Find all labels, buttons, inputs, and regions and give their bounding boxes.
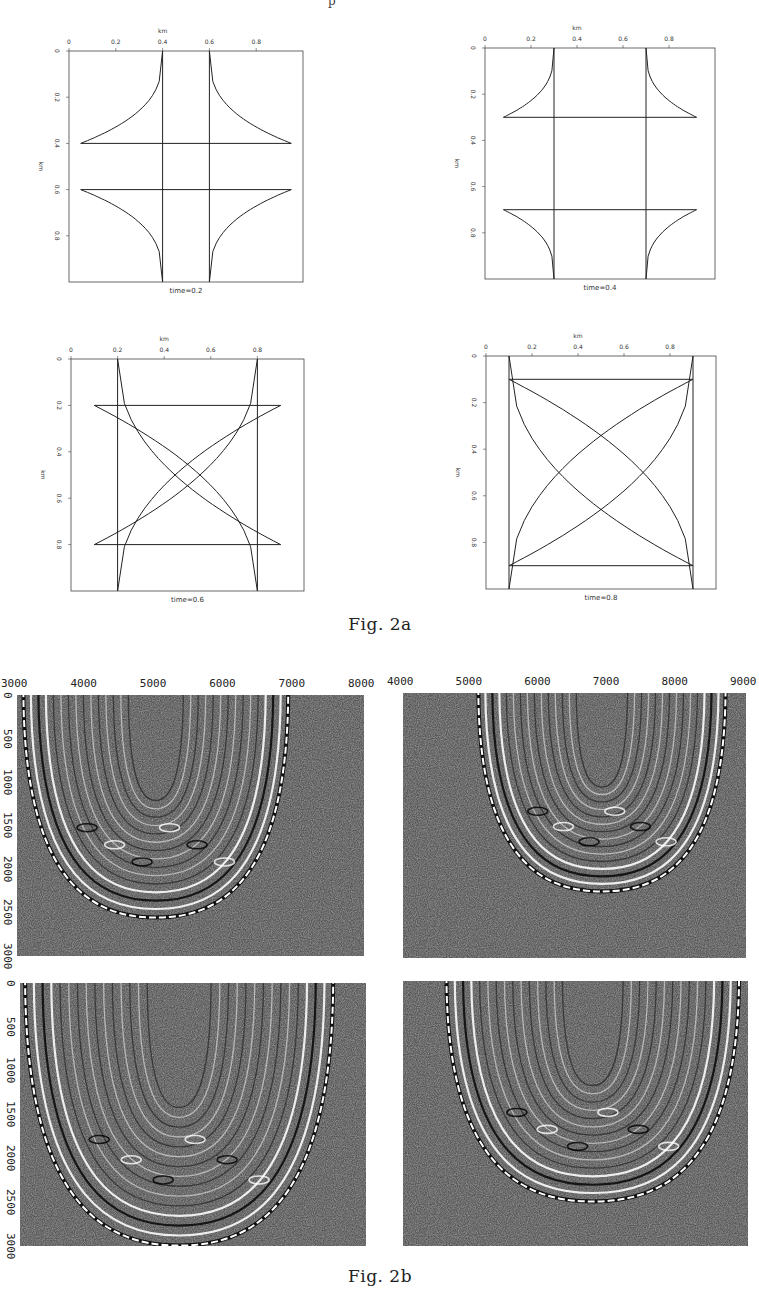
svg-text:km: km [454, 159, 461, 168]
svg-text:0: 0 [470, 46, 477, 50]
svg-text:0: 0 [471, 354, 478, 358]
seismic-image-2 [403, 693, 746, 958]
y-tick-label: 2000 [4, 1145, 17, 1172]
svg-text:0.8: 0.8 [56, 540, 63, 550]
time-label-2: time=0.4 [584, 284, 617, 292]
figure-2a-caption: Fig. 2a [348, 614, 411, 634]
time-label-4: time=0.8 [585, 594, 618, 602]
x-tick-label: 4000 [387, 675, 414, 688]
svg-text:0.8: 0.8 [54, 231, 61, 241]
wavefront-plot-3: 00.20.40.60.800.20.40.60.8kmkm [71, 359, 304, 591]
time-label-3: time=0.6 [171, 596, 204, 604]
svg-text:0: 0 [69, 346, 73, 353]
figure-2b-caption: Fig. 2b [348, 1266, 412, 1286]
svg-text:0.8: 0.8 [251, 38, 261, 45]
svg-text:0.4: 0.4 [471, 444, 478, 454]
y-tick-label: 3000 [1, 943, 14, 970]
x-tick-label: 6000 [209, 677, 236, 690]
y-tick-label: 500 [1, 729, 14, 749]
wavefront-plot-2: 00.20.40.60.800.20.40.60.8kmkm [485, 48, 715, 279]
seismic-image-4 [403, 981, 748, 1246]
wavefront-plot-1: 00.20.40.60.800.20.40.60.8kmkm [69, 51, 303, 282]
svg-text:0.6: 0.6 [619, 343, 629, 350]
svg-text:0: 0 [56, 357, 63, 361]
svg-text:km: km [158, 27, 167, 34]
svg-text:0.2: 0.2 [470, 89, 477, 99]
svg-text:0.2: 0.2 [54, 92, 61, 102]
svg-text:0.4: 0.4 [470, 136, 477, 146]
x-tick-label: 4000 [70, 677, 97, 690]
x-tick-label: 7000 [279, 677, 306, 690]
page-number-fragment: p [328, 0, 336, 8]
y-tick-label: 2500 [4, 1189, 17, 1216]
x-tick-label: 8000 [348, 677, 375, 690]
y-tick-label: 3000 [4, 1233, 17, 1260]
svg-text:0.2: 0.2 [526, 35, 536, 42]
svg-text:0.6: 0.6 [206, 346, 216, 353]
x-tick-label: 8000 [661, 675, 688, 688]
svg-text:0.6: 0.6 [54, 185, 61, 195]
svg-text:0: 0 [483, 35, 487, 42]
x-tick-label: 9000 [730, 675, 757, 688]
svg-text:0.8: 0.8 [665, 343, 675, 350]
svg-text:0.4: 0.4 [572, 35, 582, 42]
seismic-image-3 [20, 983, 366, 1246]
y-tick-label: 0 [1, 692, 14, 699]
svg-text:km: km [160, 335, 169, 342]
svg-text:km: km [455, 468, 462, 477]
x-tick-label: 7000 [593, 675, 620, 688]
svg-text:0.6: 0.6 [470, 182, 477, 192]
svg-text:0.8: 0.8 [664, 35, 674, 42]
svg-text:0.6: 0.6 [471, 491, 478, 501]
y-tick-label: 2500 [1, 899, 14, 926]
time-label-1: time=0.2 [170, 287, 203, 295]
wavefront-plot-4: 00.20.40.60.800.20.40.60.8kmkm [486, 356, 716, 589]
svg-text:0.6: 0.6 [618, 35, 628, 42]
svg-text:0.6: 0.6 [56, 493, 63, 503]
svg-text:km: km [573, 332, 582, 339]
svg-text:0.4: 0.4 [54, 139, 61, 149]
svg-text:0.2: 0.2 [56, 401, 63, 411]
svg-text:0.4: 0.4 [159, 346, 169, 353]
y-tick-label: 1000 [4, 1057, 17, 1084]
svg-text:0.6: 0.6 [205, 38, 215, 45]
svg-text:0.2: 0.2 [527, 343, 537, 350]
svg-text:0.4: 0.4 [56, 447, 63, 457]
svg-text:0: 0 [67, 38, 71, 45]
x-tick-label: 6000 [524, 675, 551, 688]
y-tick-label: 1500 [1, 812, 14, 839]
svg-text:0.2: 0.2 [113, 346, 123, 353]
svg-text:0.2: 0.2 [111, 38, 121, 45]
svg-text:km: km [40, 470, 47, 479]
svg-text:0.4: 0.4 [158, 38, 168, 45]
svg-text:km: km [38, 162, 45, 171]
y-tick-label: 0 [4, 980, 17, 987]
svg-text:0.8: 0.8 [253, 346, 263, 353]
seismic-image-1 [17, 695, 364, 956]
svg-text:km: km [572, 24, 581, 31]
y-tick-label: 1000 [1, 769, 14, 796]
x-tick-label: 5000 [456, 675, 483, 688]
y-tick-label: 2000 [1, 856, 14, 883]
svg-text:0.8: 0.8 [471, 538, 478, 548]
x-tick-label: 5000 [140, 677, 167, 690]
y-tick-label: 1500 [4, 1101, 17, 1128]
svg-text:0: 0 [484, 343, 488, 350]
y-tick-label: 500 [4, 1017, 17, 1037]
svg-text:0.8: 0.8 [470, 228, 477, 238]
svg-text:0.2: 0.2 [471, 398, 478, 408]
svg-text:0: 0 [54, 49, 61, 53]
svg-text:0.4: 0.4 [573, 343, 583, 350]
x-tick-label: 3000 [1, 677, 28, 690]
